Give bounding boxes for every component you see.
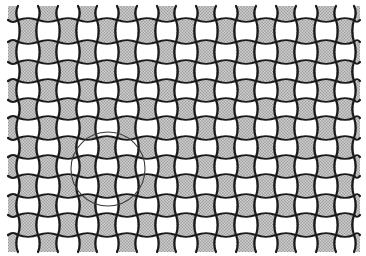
shaded-cell [58, 62, 78, 81]
shaded-cell [216, 215, 236, 235]
shaded-cell [18, 176, 38, 196]
shaded-cell [216, 62, 236, 81]
shaded-cell [117, 42, 137, 62]
shaded-cell [236, 157, 256, 176]
warped-checkerboard-figure [0, 0, 366, 256]
shaded-cell [276, 42, 296, 62]
shaded-cell [176, 100, 196, 118]
shaded-cell [256, 176, 276, 196]
shaded-cell [137, 62, 157, 81]
shaded-cell [18, 100, 38, 118]
shaded-cell [117, 157, 137, 176]
shaded-cell [196, 118, 216, 138]
shaded-cell [196, 235, 216, 252]
shaded-cell [236, 118, 256, 138]
shaded-cell [196, 42, 216, 62]
shaded-cell [196, 6, 216, 20]
shaded-cell [137, 20, 157, 42]
shaded-cell [117, 6, 137, 20]
shaded-cell [276, 118, 296, 138]
shaded-cell [38, 42, 58, 62]
shaded-cell [256, 62, 276, 81]
horizontal-grid-lines [8, 18, 360, 237]
shaded-cell [137, 100, 157, 118]
shaded-cell [176, 176, 196, 196]
shaded-cell [58, 215, 78, 235]
shaded-cell [18, 138, 38, 157]
shaded-cell [97, 215, 117, 235]
shaded-cell [296, 138, 316, 157]
shaded-cell [38, 118, 58, 138]
shaded-cell [38, 235, 58, 252]
shaded-cell [97, 138, 117, 157]
shaded-cell [176, 62, 196, 81]
shaded-cell [316, 81, 336, 100]
shaded-cell [216, 100, 236, 118]
shaded-cell [216, 176, 236, 196]
shaded-cell [236, 42, 256, 62]
checkerboard-canvas [0, 0, 366, 256]
shaded-cell [216, 138, 236, 157]
shaded-cell [256, 215, 276, 235]
shaded-cell [38, 157, 58, 176]
shaded-cell [316, 196, 336, 215]
shaded-cell [316, 235, 336, 252]
shaded-cell [196, 196, 216, 215]
shaded-cell [316, 6, 336, 20]
shaded-cell [316, 118, 336, 138]
shaded-cell [137, 138, 157, 157]
shaded-cell [97, 62, 117, 81]
shaded-cell [97, 100, 117, 118]
shaded-cell [216, 20, 236, 42]
shaded-cell [196, 157, 216, 176]
shaded-cell [176, 20, 196, 42]
shaded-cell [117, 81, 137, 100]
shaded-cell [236, 6, 256, 20]
shaded-cell [276, 81, 296, 100]
shaded-cell [276, 235, 296, 252]
shaded-cell [18, 20, 38, 42]
shaded-cell [117, 196, 137, 215]
shaded-cell [18, 62, 38, 81]
shaded-cell [296, 215, 316, 235]
shaded-cell [236, 196, 256, 215]
shaded-cell [296, 176, 316, 196]
shaded-cell [137, 215, 157, 235]
shaded-cell [97, 20, 117, 42]
shaded-cell [236, 235, 256, 252]
shaded-cell [38, 196, 58, 215]
shaded-cell [276, 196, 296, 215]
shaded-cell [176, 138, 196, 157]
shaded-cell [236, 81, 256, 100]
shaded-cell [316, 42, 336, 62]
shaded-cell [316, 157, 336, 176]
shaded-cell [296, 100, 316, 118]
shaded-cell [38, 6, 58, 20]
shaded-cell [256, 138, 276, 157]
shaded-cell [137, 176, 157, 196]
shaded-cell [256, 100, 276, 118]
shaded-cell [97, 176, 117, 196]
shaded-cell [58, 138, 78, 157]
shaded-cell [196, 81, 216, 100]
shaded-cell [117, 118, 137, 138]
shaded-cell [38, 81, 58, 100]
shaded-cell [58, 20, 78, 42]
shaded-cell [296, 20, 316, 42]
shaded-cell [296, 62, 316, 81]
shaded-cell [58, 100, 78, 118]
shaded-cell [276, 6, 296, 20]
shaded-cell [276, 157, 296, 176]
shaded-cell [256, 20, 276, 42]
shaded-cell [18, 215, 38, 235]
shaded-cell [176, 215, 196, 235]
shaded-cell [117, 235, 137, 252]
